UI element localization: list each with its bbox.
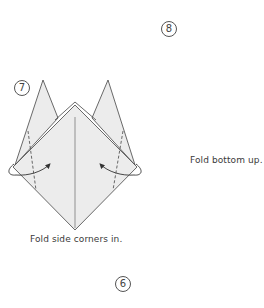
step-number-7: 7 bbox=[14, 80, 30, 96]
diagram-svg bbox=[0, 0, 264, 308]
step-7-figure bbox=[9, 80, 141, 230]
step-8-caption: Fold bottom up. bbox=[190, 155, 263, 165]
step-number-8: 8 bbox=[161, 21, 177, 37]
step-7-caption: Fold side corners in. bbox=[30, 234, 122, 244]
step-number-6: 6 bbox=[115, 276, 131, 292]
origami-diagram: 7 8 6 Fold side corners in. Fold bottom … bbox=[0, 0, 264, 308]
